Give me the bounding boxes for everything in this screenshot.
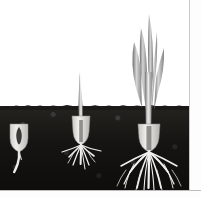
stage-1-seed (2, 106, 48, 191)
seed-channel (146, 126, 151, 150)
stage-2-seedling (52, 72, 114, 191)
germination-illustration (0, 0, 190, 191)
seed-channel (79, 120, 83, 142)
root-system (117, 152, 181, 190)
root-system (62, 145, 101, 169)
radicle-root (14, 151, 19, 172)
page-edge-rule-vertical (189, 0, 190, 191)
illustration-page: water and nutrients. (0, 0, 201, 197)
page-edge-rule-horizontal (0, 190, 201, 191)
stage-3-young-plant (108, 12, 190, 191)
